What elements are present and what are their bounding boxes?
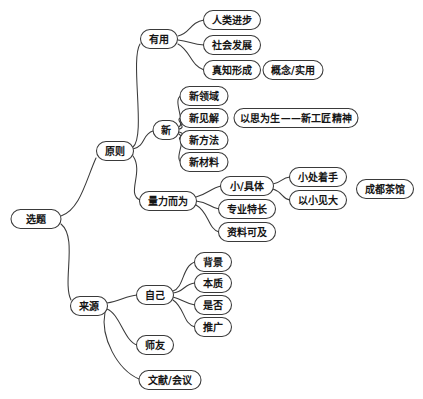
node-label-newmethod: 新方法 <box>189 134 220 146</box>
node-principle[interactable]: 原则 <box>97 142 134 161</box>
node-label-mentor: 师友 <box>145 339 165 351</box>
node-label-seebig: 以小见大 <box>298 194 339 206</box>
node-label-startsmall: 小处着手 <box>297 171 339 183</box>
node-capacity[interactable]: 量力而为 <box>140 192 197 211</box>
node-label-newmaterial: 新材料 <box>189 156 220 168</box>
node-self[interactable]: 自己 <box>137 286 174 305</box>
node-label-progress: 人类进步 <box>212 14 253 26</box>
node-newview[interactable]: 新见解 <box>180 109 228 128</box>
node-concept[interactable]: 概念/实用 <box>263 61 323 80</box>
node-teahouse[interactable]: 成都茶馆 <box>357 180 414 199</box>
node-label-materials: 资料可及 <box>227 226 269 238</box>
node-startsmall[interactable]: 小处着手 <box>290 168 347 187</box>
node-materials[interactable]: 资料可及 <box>219 223 276 242</box>
node-newfield[interactable]: 新领域 <box>180 87 228 106</box>
node-new[interactable]: 新 <box>153 121 179 140</box>
node-literature[interactable]: 文献/会议 <box>139 371 201 390</box>
node-newmaterial[interactable]: 新材料 <box>180 153 228 172</box>
node-label-self: 自己 <box>145 289 165 301</box>
node-label-spirit: 以思为生——新工匠精神 <box>240 112 352 124</box>
node-promote[interactable]: 推广 <box>195 318 232 337</box>
node-label-capacity: 量力而为 <box>148 195 189 207</box>
node-seebig[interactable]: 以小见大 <box>290 191 347 210</box>
node-label-useful: 有用 <box>149 33 169 45</box>
node-truth[interactable]: 真知形成 <box>204 61 261 80</box>
node-useful[interactable]: 有用 <box>141 30 178 49</box>
node-label-literature: 文献/会议 <box>148 374 193 386</box>
node-label-newview: 新见解 <box>189 112 220 124</box>
node-spirit[interactable]: 以思为生——新工匠精神 <box>234 109 358 128</box>
node-root[interactable]: 选题 <box>11 210 61 229</box>
mind-map-canvas: 选题原则来源有用新量力而为人类进步社会发展真知形成概念/实用新领域新见解新方法新… <box>0 0 423 399</box>
node-label-newfield: 新领域 <box>189 90 220 102</box>
node-source[interactable]: 来源 <box>71 297 108 316</box>
node-concrete[interactable]: 小/具体 <box>221 177 274 196</box>
node-whether[interactable]: 是否 <box>195 296 232 315</box>
node-mentor[interactable]: 师友 <box>137 336 174 355</box>
node-label-principle: 原则 <box>105 145 125 157</box>
node-label-promote: 推广 <box>203 321 223 333</box>
node-label-specialty: 专业特长 <box>227 203 269 215</box>
node-society[interactable]: 社会发展 <box>204 36 261 55</box>
node-label-teahouse: 成都茶馆 <box>365 183 406 195</box>
node-label-concept: 概念/实用 <box>271 64 316 76</box>
node-specialty[interactable]: 专业特长 <box>219 200 276 219</box>
node-newmethod[interactable]: 新方法 <box>180 131 228 150</box>
node-label-root: 选题 <box>26 213 47 225</box>
node-label-concrete: 小/具体 <box>229 180 265 192</box>
node-label-truth: 真知形成 <box>212 64 253 76</box>
node-label-new: 新 <box>161 124 171 136</box>
node-label-whether: 是否 <box>202 300 223 311</box>
node-essence[interactable]: 本质 <box>195 274 232 293</box>
node-label-source: 来源 <box>78 300 99 312</box>
node-label-society: 社会发展 <box>211 39 253 51</box>
node-background[interactable]: 背景 <box>195 253 232 272</box>
node-progress[interactable]: 人类进步 <box>204 11 261 30</box>
node-label-essence: 本质 <box>203 277 223 289</box>
canvas-background <box>0 0 423 399</box>
node-label-background: 背景 <box>203 256 223 268</box>
